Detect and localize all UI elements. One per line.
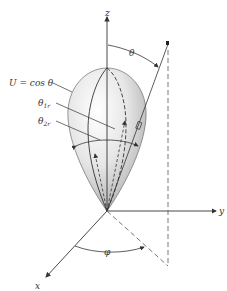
theta1r-subscript: 1r (43, 102, 51, 109)
observation-point-marker (166, 41, 169, 45)
radiation-pattern-diagram: z y x θ φ U = cos θ θ1r θ2r (0, 0, 227, 291)
theta2r-subscript: 2r (42, 120, 51, 127)
theta1r-label: θ1r (38, 98, 51, 109)
y-axis-label: y (218, 206, 225, 216)
leader-u-cos-theta (53, 83, 72, 92)
z-axis-label: z (104, 8, 110, 18)
pattern-equation-label: U = cos θ (9, 78, 54, 88)
ground-projection-dashed (107, 211, 168, 266)
x-axis-label: x (35, 281, 40, 291)
phi-label: φ (104, 247, 111, 257)
x-axis (46, 211, 107, 277)
theta-label: θ (129, 48, 135, 58)
theta2r-label: θ2r (38, 116, 51, 127)
